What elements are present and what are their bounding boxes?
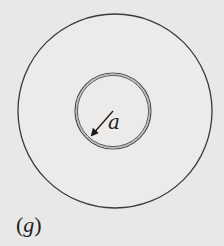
radius-label: a bbox=[108, 112, 120, 132]
figure-caption: (g) bbox=[16, 214, 42, 236]
caption-close-paren: ) bbox=[34, 212, 41, 237]
figure-canvas: a (g) bbox=[0, 0, 224, 246]
caption-letter: g bbox=[23, 212, 34, 237]
